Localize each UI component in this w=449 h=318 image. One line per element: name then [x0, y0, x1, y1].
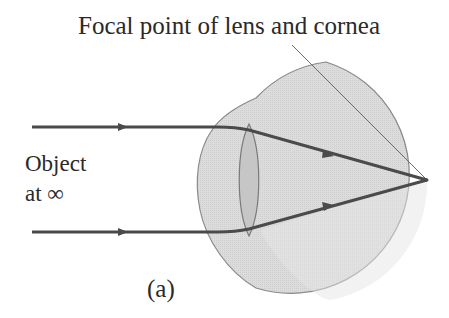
eyeball [197, 62, 427, 300]
object-label-line1: Object [25, 151, 87, 176]
focal-point-label: Focal point of lens and cornea [78, 12, 380, 39]
panel-label: (a) [147, 275, 175, 303]
focal-point [426, 179, 429, 182]
arrow-icon [118, 123, 128, 131]
object-label-line2: at ∞ [25, 181, 64, 206]
eye-focus-diagram: Focal point of lens and cornea Object at… [0, 0, 449, 318]
arrow-icon [118, 228, 128, 236]
